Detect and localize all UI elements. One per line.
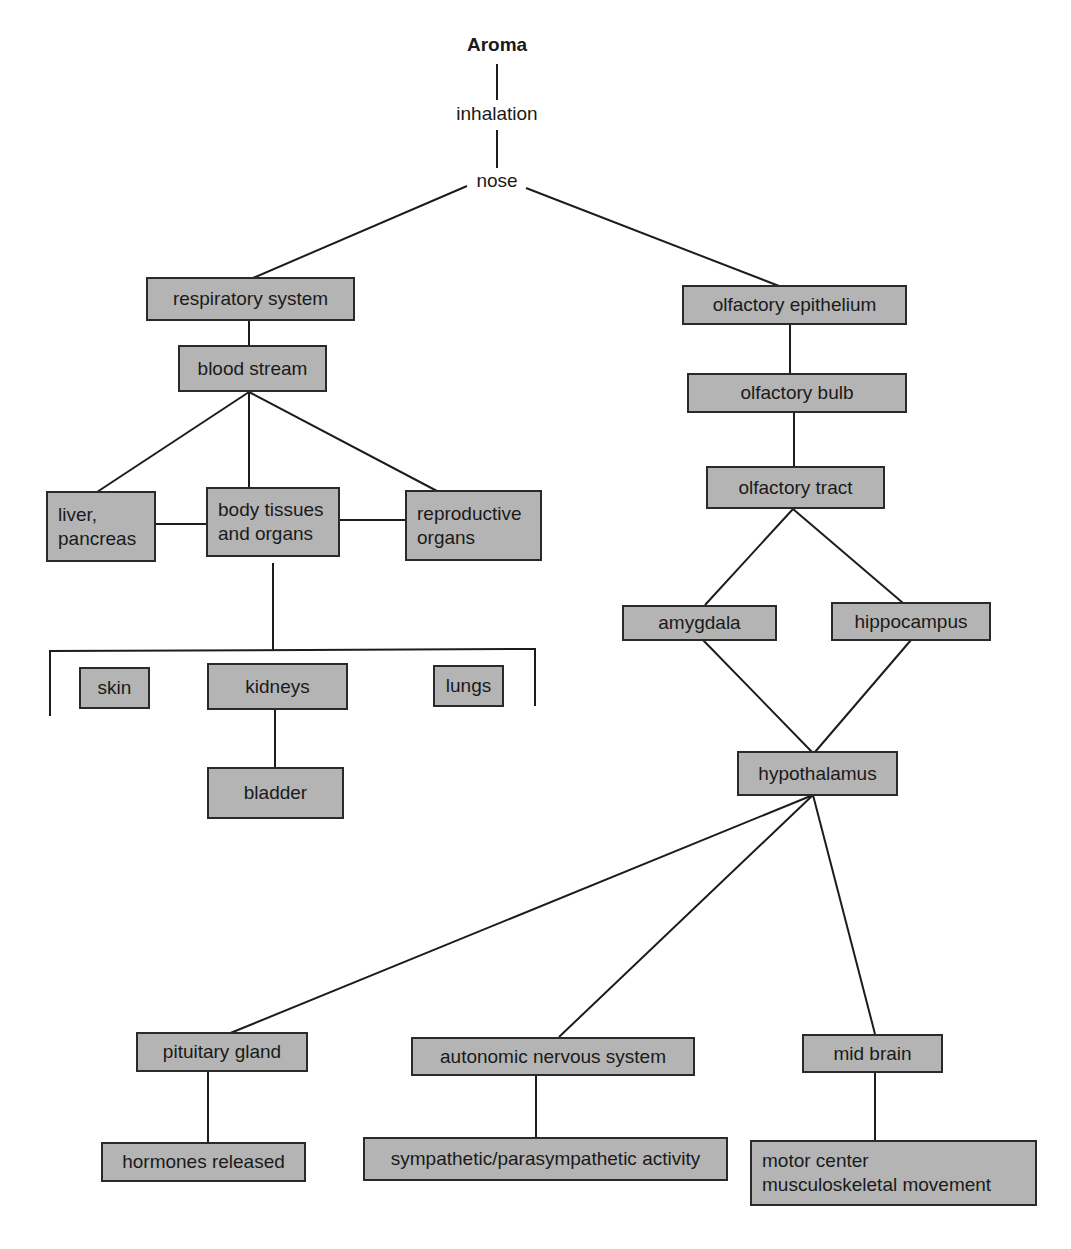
node-hippocampus: hippocampus [831, 602, 991, 641]
node-olfactory-epithelium: olfactory epithelium [682, 285, 907, 325]
node-liver-pancreas: liver, pancreas [46, 491, 156, 562]
node-olfactory-tract: olfactory tract [706, 466, 885, 509]
node-olfactory-bulb: olfactory bulb [687, 373, 907, 413]
node-amygdala: amygdala [622, 605, 777, 641]
node-reproductive-organs: reproductive organs [405, 490, 542, 561]
node-pituitary-gland: pituitary gland [136, 1032, 308, 1072]
node-motor-center-musculoskeletal-movement: motor center musculoskeletal movement [750, 1140, 1037, 1206]
node-skin: skin [79, 667, 150, 709]
node-hypothalamus: hypothalamus [737, 751, 898, 796]
label-inhalation: inhalation [453, 103, 540, 125]
node-respiratory-system: respiratory system [146, 277, 355, 321]
node-body-tissues-organs: body tissues and organs [206, 487, 340, 557]
node-blood-stream: blood stream [178, 345, 327, 392]
aroma-pathway-diagram: Aroma inhalation nose respiratory system… [0, 0, 1071, 1249]
node-sympathetic-parasympathetic-activity: sympathetic/parasympathetic activity [363, 1137, 728, 1181]
node-autonomic-nervous-system: autonomic nervous system [411, 1037, 695, 1076]
node-hormones-released: hormones released [101, 1142, 306, 1182]
node-bladder: bladder [207, 767, 344, 819]
node-lungs: lungs [433, 665, 504, 707]
node-kidneys: kidneys [207, 663, 348, 710]
node-mid-brain: mid brain [802, 1034, 943, 1073]
root-label-aroma: Aroma [464, 34, 530, 56]
label-nose: nose [473, 170, 520, 192]
